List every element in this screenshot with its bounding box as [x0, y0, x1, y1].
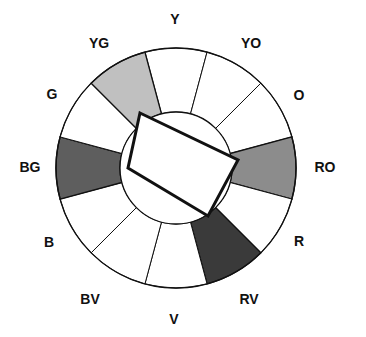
- segment-label-ro: RO: [315, 159, 336, 175]
- color-wheel-diagram: YYOORORRVVBVBBGGYG: [0, 0, 366, 337]
- segment-label-yo: YO: [241, 35, 261, 51]
- segment-label-o: O: [294, 87, 305, 103]
- segment-label-bv: BV: [80, 291, 100, 307]
- segment-label-y: Y: [170, 11, 180, 27]
- segment-label-bg: BG: [20, 159, 41, 175]
- segment-label-v: V: [169, 311, 179, 327]
- segment-label-yg: YG: [89, 35, 109, 51]
- segment-label-r: R: [294, 233, 304, 249]
- segment-label-b: B: [44, 234, 54, 250]
- segment-label-rv: RV: [239, 291, 259, 307]
- segment-label-g: G: [47, 86, 58, 102]
- color-wheel-svg: YYOORORRVVBVBBGGYG: [0, 0, 366, 337]
